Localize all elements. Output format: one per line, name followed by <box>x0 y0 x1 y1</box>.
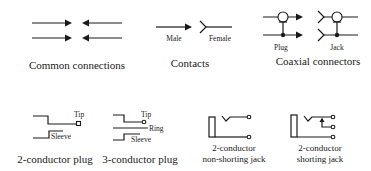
common-connections-caption: Common connections <box>29 59 125 71</box>
non-shorting-jack-caption-line1: 2-conductor <box>212 143 255 153</box>
sleeve-label: Sleeve <box>51 132 72 141</box>
jack-label: Jack <box>330 43 344 52</box>
male-label: Male <box>166 34 182 43</box>
arrow-left-icon <box>82 35 122 42</box>
common-connections-symbol <box>32 20 122 42</box>
arrow-right-icon <box>32 35 72 42</box>
coaxial-jack-symbol <box>318 11 358 41</box>
non-shorting-jack-caption-line2: non-shorting jack <box>202 154 266 164</box>
coaxial-connectors-caption: Coaxial connectors <box>276 55 361 67</box>
arrow-right-icon <box>32 20 72 27</box>
ring-label: Ring <box>149 124 164 133</box>
two-conductor-plug-caption: 2-conductor plug <box>17 153 93 165</box>
tip-label: Tip <box>74 110 84 119</box>
male-contact-symbol <box>156 24 192 31</box>
shorting-jack-caption-line1: 2-conductor <box>298 143 341 153</box>
female-label: Female <box>209 34 232 43</box>
tip-label: Tip <box>141 110 151 119</box>
contacts-caption: Contacts <box>171 57 210 69</box>
shorting-jack-symbol <box>291 115 335 139</box>
arrow-left-icon <box>82 20 122 27</box>
plug-label: Plug <box>274 43 288 52</box>
female-contact-symbol <box>200 21 232 33</box>
three-conductor-plug-caption: 3-conductor plug <box>102 153 178 165</box>
coaxial-plug-symbol <box>263 12 303 39</box>
shorting-jack-caption-line2: shorting jack <box>297 154 344 164</box>
sleeve-label: Sleeve <box>131 135 152 144</box>
non-shorting-jack-symbol <box>209 115 251 139</box>
connector-symbols-diagram: Common connections Male Female Contacts … <box>0 0 371 171</box>
